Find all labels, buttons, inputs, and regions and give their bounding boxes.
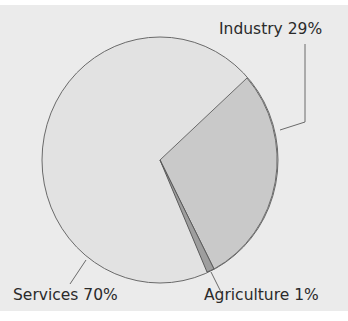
- label-agriculture: Agriculture 1%: [204, 286, 319, 304]
- pie-chart: Industry 29% Agriculture 1% Services 70%: [0, 0, 348, 321]
- label-services: Services 70%: [13, 286, 118, 304]
- leader-line-services: [70, 260, 86, 284]
- label-industry: Industry 29%: [219, 20, 322, 38]
- leader-line-industry: [280, 44, 305, 130]
